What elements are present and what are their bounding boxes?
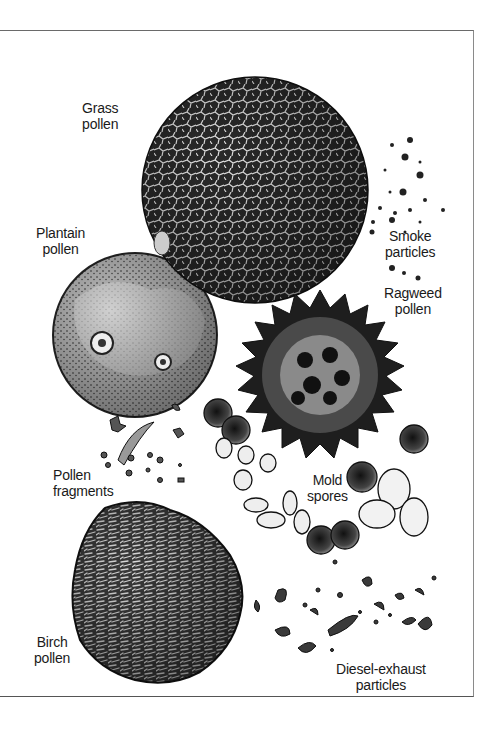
label-line: Plantain: [36, 225, 85, 241]
birch-pollen-icon: [72, 502, 242, 683]
label-line: Pollen: [53, 467, 113, 483]
diesel-exhaust-icon: [254, 560, 436, 653]
illustration: [0, 0, 499, 738]
label-line: particles: [385, 244, 435, 260]
grass-pollen-icon: [142, 77, 368, 303]
label-line: pollen: [82, 116, 118, 132]
label-birch-pollen: Birch pollen: [34, 634, 70, 666]
label-pollen-fragments: Pollen fragments: [53, 467, 113, 499]
label-line: Birch: [34, 634, 70, 650]
label-mold-spores: Mold spores: [307, 472, 348, 504]
label-line: Grass: [82, 100, 118, 116]
label-line: Smoke: [385, 228, 435, 244]
label-line: pollen: [36, 241, 85, 257]
label-grass-pollen: Grass pollen: [82, 100, 118, 132]
label-line: spores: [307, 488, 348, 504]
label-line: particles: [336, 677, 426, 693]
label-ragweed-pollen: Ragweed pollen: [384, 285, 442, 317]
label-line: fragments: [53, 483, 113, 499]
label-line: pollen: [34, 650, 70, 666]
label-line: Mold: [307, 472, 348, 488]
label-diesel-exhaust: Diesel-exhaust particles: [336, 661, 426, 693]
label-line: Ragweed: [384, 285, 442, 301]
label-plantain-pollen: Plantain pollen: [36, 225, 85, 257]
label-line: pollen: [384, 301, 442, 317]
ragweed-pollen-icon: [236, 290, 404, 458]
label-line: Diesel-exhaust: [336, 661, 426, 677]
label-smoke-particles: Smoke particles: [385, 228, 435, 260]
